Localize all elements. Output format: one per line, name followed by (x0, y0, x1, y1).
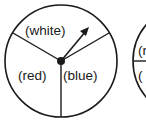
spinner-hub (57, 57, 65, 65)
spinner-2-partial: (r ( (133, 5, 146, 117)
section-label-blue: (blue) (63, 68, 98, 83)
arrow-head-icon (80, 27, 89, 36)
spinner-2-label-bottom: ( (138, 68, 143, 83)
divider-upper-right (61, 33, 109, 61)
section-label-white: (white) (25, 23, 66, 38)
spinners-diagram: (white) (red) (blue) (r ( (0, 0, 146, 126)
spinner-2-label-top: (r (138, 43, 146, 58)
section-label-red: (red) (18, 68, 47, 83)
spinner-1: (white) (red) (blue) (5, 5, 117, 117)
